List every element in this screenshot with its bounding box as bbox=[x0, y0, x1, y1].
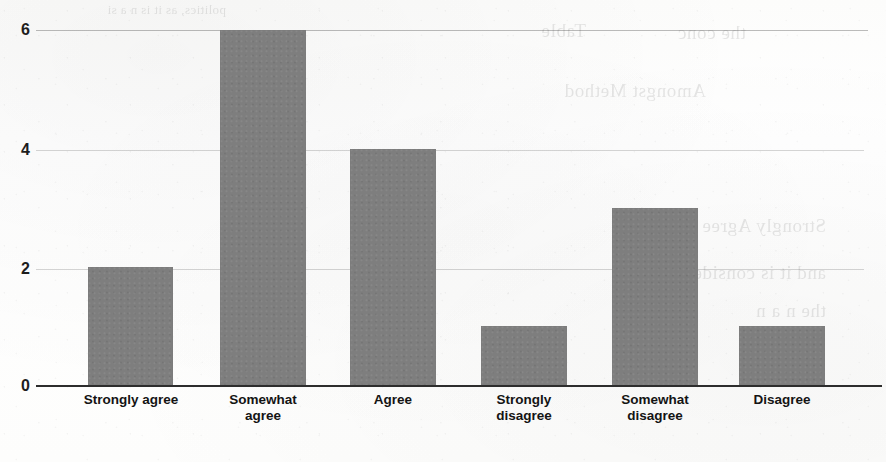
x-axis-label-agree: Agree bbox=[328, 392, 458, 408]
bar-agree[interactable] bbox=[350, 149, 436, 385]
x-axis-label-line: agree bbox=[198, 408, 328, 424]
y-axis-tick-4: 4 bbox=[4, 142, 30, 158]
y-axis-tick-0: 0 bbox=[4, 378, 30, 394]
x-axis-label-line: disagree bbox=[590, 408, 720, 424]
x-axis-label-line: disagree bbox=[459, 408, 589, 424]
gridline-6 bbox=[36, 30, 868, 31]
bar-somewhat-agree[interactable] bbox=[220, 30, 306, 385]
x-axis-label-strongly-agree: Strongly agree bbox=[66, 392, 196, 408]
x-axis-label-somewhat-disagree: Somewhat disagree bbox=[590, 392, 720, 424]
scanned-chart-page: politics, as it is n a si Table the conc… bbox=[0, 0, 886, 462]
x-axis-label-line: Strongly bbox=[459, 392, 589, 408]
bar-disagree[interactable] bbox=[739, 326, 825, 385]
x-axis-label-line: Agree bbox=[328, 392, 458, 408]
x-axis-label-disagree: Disagree bbox=[717, 392, 847, 408]
gridline-4 bbox=[36, 150, 864, 151]
x-axis-label-strongly-disagree: Strongly disagree bbox=[459, 392, 589, 424]
bar-chart-plot-area: 6 4 2 0 Strongly agree Somewhat agree Ag… bbox=[0, 0, 886, 462]
y-axis-tick-6: 6 bbox=[4, 22, 30, 38]
bar-strongly-agree[interactable] bbox=[88, 267, 173, 385]
x-axis-label-line: Somewhat bbox=[198, 392, 328, 408]
x-axis-label-somewhat-agree: Somewhat agree bbox=[198, 392, 328, 424]
x-axis-label-line: Strongly agree bbox=[66, 392, 196, 408]
x-axis-label-line: Disagree bbox=[717, 392, 847, 408]
x-axis-baseline bbox=[36, 385, 882, 387]
bar-strongly-disagree[interactable] bbox=[481, 326, 567, 385]
y-axis-tick-2: 2 bbox=[4, 261, 30, 277]
bar-somewhat-disagree[interactable] bbox=[612, 208, 698, 385]
x-axis-label-line: Somewhat bbox=[590, 392, 720, 408]
